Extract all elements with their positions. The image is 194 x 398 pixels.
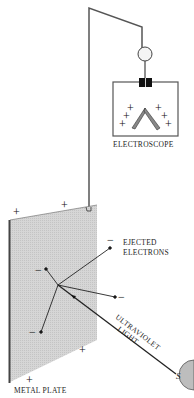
plate-plus: + bbox=[61, 198, 68, 212]
electron bbox=[114, 296, 117, 299]
electroscope-label: ELECTROSCOPE bbox=[113, 140, 174, 149]
electron-minus: − bbox=[29, 325, 36, 339]
source-label: S bbox=[176, 371, 181, 381]
plate-plus: + bbox=[13, 205, 20, 219]
ejected-electrons-label-2: ELECTRONS bbox=[123, 248, 169, 257]
electroscope: + + + + + + ELECTROSCOPE bbox=[113, 47, 178, 149]
light-source: S bbox=[176, 360, 194, 390]
charge-plus: + bbox=[165, 117, 172, 131]
electron-minus: − bbox=[118, 290, 125, 304]
electron bbox=[109, 247, 112, 250]
photoelectric-diagram: + + + + + + ELECTROSCOPE + + + + METAL P… bbox=[0, 0, 194, 398]
plate-plus: + bbox=[79, 343, 86, 357]
electroscope-knob bbox=[138, 47, 152, 61]
electron bbox=[45, 268, 48, 271]
ejected-electrons-label-1: EJECTED bbox=[123, 238, 157, 247]
charge-plus: + bbox=[119, 117, 126, 131]
plate-plus: + bbox=[26, 373, 33, 387]
electron bbox=[40, 331, 43, 334]
metal-plate: + + + + METAL PLATE bbox=[10, 198, 98, 395]
electron-minus: − bbox=[35, 263, 42, 277]
electron-minus: − bbox=[107, 233, 114, 247]
metal-plate-label: METAL PLATE bbox=[14, 386, 67, 395]
